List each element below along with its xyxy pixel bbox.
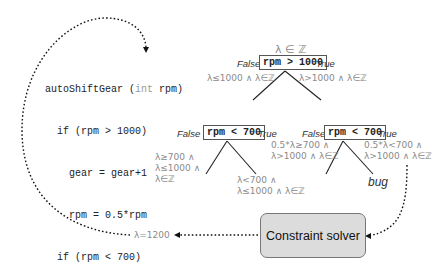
right-true-label: True (378, 128, 397, 139)
left-true-constraint: λ<700 ∧ λ≤1000 ∧ λ∈ℤ (237, 175, 305, 197)
right-false-label: False (302, 128, 325, 139)
root-true-label: True (316, 58, 335, 69)
constraint-solver-box: Constraint solver (260, 213, 366, 258)
left-true-label: True (258, 128, 277, 139)
edge-left-true (227, 141, 256, 174)
left-condition-node: rpm < 700 (203, 125, 265, 140)
root-false-label: False (237, 58, 260, 69)
right-true-constraint: 0.5*λ<700 ∧ λ>1000 ∧ λ∈ℤ (364, 140, 432, 162)
right-false-constraint: 0.5*λ≥700 ∧ λ>1000 ∧ λ∈ℤ (271, 140, 339, 162)
right-condition-node: rpm < 700 (324, 125, 386, 140)
bug-leaf: bug (368, 175, 388, 189)
code-line: if (rpm < 700) (45, 251, 183, 265)
code-line: if (rpm > 1000) (45, 125, 183, 139)
edge-left-false (206, 141, 227, 174)
root-precondition: λ ∈ ℤ (275, 44, 306, 55)
root-true-constraint: λ>1000 ∧ λ∈ℤ (299, 73, 367, 84)
code-line-signature: autoShiftGear (int rpm) (45, 83, 183, 97)
code-line: rpm = 0.5*rpm (45, 209, 183, 223)
left-false-constraint: λ≥700 ∧ λ≤1000 ∧ λ∈ℤ (155, 152, 200, 185)
root-false-constraint: λ≤1000 ∧ λ∈ℤ (207, 73, 275, 84)
solver-output: λ=1200 (134, 230, 170, 241)
left-false-label: False (177, 128, 200, 139)
